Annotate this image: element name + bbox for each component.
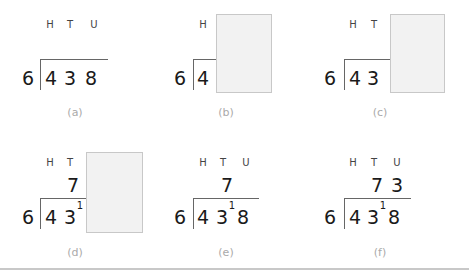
header-tens: T (220, 158, 226, 168)
dividend-tens: 3 (367, 68, 379, 88)
header-hundreds: H (199, 158, 207, 168)
dividend-hundreds: 4 (45, 207, 57, 227)
dividend-units: 8 (388, 207, 400, 227)
dividend-hundreds: 4 (349, 207, 361, 227)
cover-card (390, 14, 445, 93)
divisor: 6 (324, 68, 336, 88)
header-tens: T (371, 158, 377, 168)
quotient-tens: 7 (221, 175, 233, 195)
dividend-hundreds: 4 (197, 207, 209, 227)
caption: (b) (218, 107, 234, 119)
header-tens: T (371, 20, 377, 30)
division-bar (193, 198, 259, 199)
panel-f: H T U 7 3 6 4 3 1 8 (f) (0, 0, 156, 135)
quotient-tens: 7 (371, 175, 383, 195)
division-bar (40, 198, 86, 199)
header-tens: T (67, 158, 73, 168)
carry-digit: 1 (380, 201, 386, 211)
dividend-tens: 3 (367, 207, 379, 227)
divisor: 6 (174, 68, 186, 88)
caption: (c) (373, 107, 388, 119)
header-units: U (393, 158, 400, 168)
division-bracket (193, 198, 194, 229)
dividend-hundreds: 4 (349, 68, 361, 88)
dividend-hundreds: 4 (197, 68, 209, 88)
dividend-units: 8 (237, 207, 249, 227)
divisor: 6 (174, 207, 186, 227)
division-bar (193, 59, 216, 60)
bottom-divider (0, 268, 469, 270)
header-hundreds: H (46, 158, 54, 168)
divisor: 6 (324, 207, 336, 227)
header-units: U (242, 158, 249, 168)
division-bracket (193, 59, 194, 90)
caption: (e) (218, 247, 233, 259)
cover-card (216, 14, 272, 93)
caption: (f) (374, 247, 386, 259)
dividend-tens: 3 (216, 207, 228, 227)
division-bracket (344, 59, 345, 90)
quotient-units: 3 (391, 175, 403, 195)
division-bar (344, 59, 390, 60)
carry-digit: 1 (77, 201, 83, 211)
quotient-tens: 7 (67, 175, 79, 195)
header-hundreds: H (349, 20, 357, 30)
dividend-tens: 3 (64, 207, 76, 227)
header-hundreds: H (199, 20, 207, 30)
cover-card (86, 152, 143, 233)
division-bar (344, 198, 411, 199)
division-bracket (40, 198, 41, 229)
divisor: 6 (22, 207, 34, 227)
division-bracket (344, 198, 345, 229)
caption: (d) (67, 247, 83, 259)
carry-digit: 1 (229, 201, 235, 211)
header-hundreds: H (349, 158, 357, 168)
